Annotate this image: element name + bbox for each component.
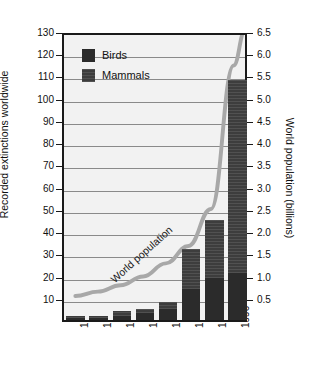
y-axis-left-tick-label: 30 bbox=[14, 250, 54, 260]
y-axis-left-tick-label: 40 bbox=[14, 228, 54, 238]
y-axis-right-tickmark bbox=[247, 278, 253, 279]
bar-segment-mammals bbox=[89, 316, 108, 318]
bar-segment-mammals bbox=[205, 220, 224, 278]
legend-label-mammals: Mammals bbox=[102, 70, 150, 81]
y-axis-right-tick-label: 1.0 bbox=[257, 273, 271, 283]
bar-segment-mammals bbox=[182, 249, 201, 289]
bar-segment-mammals bbox=[228, 80, 247, 273]
y-axis-right-tick-label: 3.5 bbox=[257, 161, 271, 171]
y-axis-right-tick-label: 3.0 bbox=[257, 184, 271, 194]
y-axis-right-tickmark bbox=[247, 122, 253, 123]
y-axis-right-tick-label: 0.5 bbox=[257, 295, 271, 305]
bar-group bbox=[66, 316, 85, 320]
y-axis-right-tickmark bbox=[247, 55, 253, 56]
y-axis-right-tickmark bbox=[247, 166, 253, 167]
y-axis-right-tick-label: 4.0 bbox=[257, 139, 271, 149]
bar-segment-birds bbox=[228, 273, 247, 320]
bar-segment-mammals bbox=[113, 311, 132, 315]
y-axis-left-tick-label: 110 bbox=[14, 72, 54, 82]
y-axis-right-tickmark bbox=[247, 100, 253, 101]
bar-segment-birds bbox=[66, 318, 85, 320]
bar-segment-birds bbox=[159, 309, 178, 320]
bar-group bbox=[113, 311, 132, 320]
y-axis-right-tickmark bbox=[247, 77, 253, 78]
y-axis-right-tickmark bbox=[247, 233, 253, 234]
mammals-swatch-icon bbox=[82, 69, 95, 82]
y-axis-left-tick-label: 90 bbox=[14, 117, 54, 127]
y-axis-right-tick-label: 2.0 bbox=[257, 228, 271, 238]
bar-group bbox=[89, 316, 108, 320]
bar-group bbox=[136, 309, 155, 320]
y-axis-right-tick-label: 2.5 bbox=[257, 206, 271, 216]
y-axis-left-title: Recorded extinctions worldwide bbox=[0, 0, 10, 289]
birds-swatch-icon bbox=[82, 49, 95, 62]
bar-segment-birds bbox=[136, 313, 155, 320]
y-axis-right-tick-label: 5.0 bbox=[257, 95, 271, 105]
bar-group bbox=[205, 220, 224, 320]
y-axis-left-tick-label: 20 bbox=[14, 273, 54, 283]
bar-group bbox=[182, 249, 201, 320]
y-axis-left-tick-label: 100 bbox=[14, 95, 54, 105]
bar-segment-mammals bbox=[159, 302, 178, 309]
y-axis-left-tick-label: 60 bbox=[14, 184, 54, 194]
legend-item-birds: Birds bbox=[82, 49, 150, 62]
bar-segment-mammals bbox=[66, 316, 85, 318]
y-axis-left-tick-label: 70 bbox=[14, 161, 54, 171]
y-axis-left-tick-label: 50 bbox=[14, 206, 54, 216]
y-axis-right-tick-label: 1.5 bbox=[257, 250, 271, 260]
y-axis-left-tick-label: 130 bbox=[14, 28, 54, 38]
y-axis-left-tick-label: 80 bbox=[14, 139, 54, 149]
y-axis-right-tick-label: 6.0 bbox=[257, 50, 271, 60]
y-axis-right-tickmark bbox=[247, 33, 253, 34]
y-axis-right-tickmark bbox=[247, 189, 253, 190]
y-axis-right-title: World population (billions) bbox=[284, 44, 296, 312]
bar-segment-mammals bbox=[136, 309, 155, 313]
bar-segment-birds bbox=[205, 278, 224, 320]
bar-group bbox=[159, 302, 178, 320]
legend-item-mammals: Mammals bbox=[82, 69, 150, 82]
y-axis-right-tick-label: 6.5 bbox=[257, 28, 271, 38]
y-axis-left-tick-label: 10 bbox=[14, 295, 54, 305]
y-axis-right-tick-label: 4.5 bbox=[257, 117, 271, 127]
y-axis-right-tickmark bbox=[247, 211, 253, 212]
bar-group bbox=[228, 80, 247, 320]
legend-label-birds: Birds bbox=[102, 50, 127, 61]
y-axis-right-tick-label: 5.5 bbox=[257, 72, 271, 82]
plot-area: World population Birds Mammals bbox=[62, 33, 247, 322]
y-axis-right-tickmark bbox=[247, 300, 253, 301]
y-axis-right-tickmark bbox=[247, 144, 253, 145]
y-axis-left-tick-label: 120 bbox=[14, 50, 54, 60]
bar-segment-birds bbox=[89, 318, 108, 320]
bar-segment-birds bbox=[182, 289, 201, 320]
chart-figure: Recorded extinctions worldwide World pop… bbox=[0, 0, 315, 366]
bar-segment-birds bbox=[113, 316, 132, 320]
chart-legend: Birds Mammals bbox=[82, 49, 150, 89]
y-axis-right-tickmark bbox=[247, 255, 253, 256]
